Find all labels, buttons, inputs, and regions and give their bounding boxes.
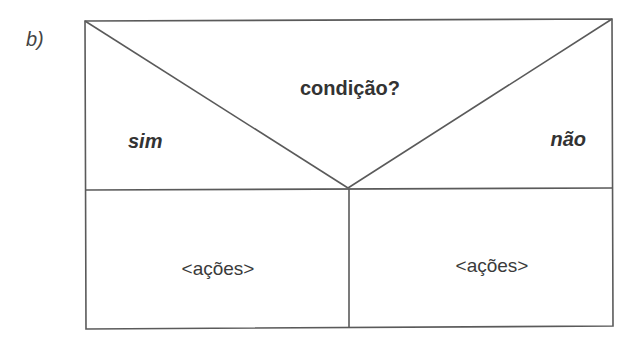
true-actions-block: <ações> [182,258,255,279]
if-else-structogram: b) condição? sim não <ações> <ações> [0,0,634,345]
true-branch-label: sim [128,130,162,152]
left-diagonal-line [85,21,348,188]
condition-label: condição? [300,77,400,99]
figure-label: b) [26,28,44,50]
right-diagonal-line [348,19,612,188]
false-actions-block: <ações> [456,255,529,276]
false-branch-label: não [550,128,586,150]
